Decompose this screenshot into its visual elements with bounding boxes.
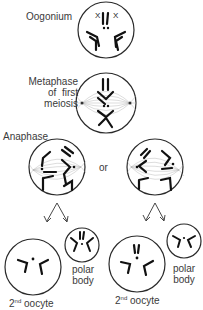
anaphase-cell-right	[127, 139, 184, 195]
oocyte-ordinal: nd	[15, 298, 22, 304]
oocyte-ordinal: nd	[121, 295, 128, 301]
polar-label-line-2: body	[66, 275, 100, 286]
polar-body-right	[167, 224, 201, 258]
polar-label-line-1: polar	[167, 263, 201, 274]
oogonium-cell: X X	[78, 2, 134, 58]
anaphase-cell-left	[29, 139, 86, 195]
metaphase-label: Metaphase of first meiosis	[20, 76, 78, 109]
metaphase-label-line-2: of first	[20, 87, 78, 98]
or-connector: or	[99, 162, 108, 173]
polar-body-left	[65, 228, 99, 262]
anaphase-label: Anaphase	[3, 131, 48, 142]
metaphase-label-line-3: meiosis	[20, 98, 78, 109]
oocyte-label-left: 2nd oocyte	[9, 298, 54, 309]
oocyte-right	[109, 236, 165, 292]
metaphase-cell	[75, 73, 137, 133]
polar-body-label-right: polar body	[167, 263, 201, 285]
oocyte-label-right: 2nd oocyte	[115, 295, 160, 306]
metaphase-label-line-1: Metaphase	[20, 76, 78, 87]
x-chromosome-mark-left: X	[95, 11, 101, 20]
polar-body-label-left: polar body	[66, 264, 100, 286]
arrows	[44, 203, 165, 222]
oogonium-label: Oogonium	[26, 11, 72, 22]
polar-label-line-2: body	[167, 274, 201, 285]
polar-label-line-1: polar	[66, 264, 100, 275]
oocyte-left	[5, 239, 61, 295]
x-chromosome-mark-right: X	[113, 11, 119, 20]
oocyte-word: oocyte	[130, 295, 159, 306]
oocyte-word: oocyte	[24, 298, 53, 309]
